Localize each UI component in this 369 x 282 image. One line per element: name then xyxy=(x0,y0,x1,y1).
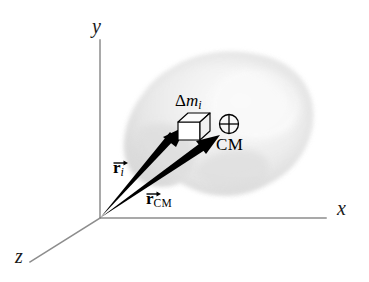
axis-label-y: y xyxy=(92,16,101,36)
center-of-mass-diagram: y x z Δmi CM r i r CM xyxy=(0,0,369,282)
delta-symbol: Δ xyxy=(175,91,186,110)
diagram-canvas xyxy=(0,0,369,282)
vector-arrow-icon xyxy=(146,190,161,197)
axis-label-x: x xyxy=(337,198,346,218)
vector-label-r-cm: r CM xyxy=(146,190,172,210)
center-of-mass-label: CM xyxy=(216,136,243,153)
axis-label-z: z xyxy=(15,246,23,266)
vector-r-cm-subscript: CM xyxy=(154,197,172,209)
vector-r-i-stem: r xyxy=(113,159,121,176)
z-axis xyxy=(30,218,100,262)
vector-label-r-i: r i xyxy=(113,159,124,178)
mass-element-label: Δmi xyxy=(175,92,202,111)
mass-index-subscript: i xyxy=(198,98,201,112)
center-of-mass-symbol xyxy=(220,115,239,134)
vector-arrow-icon xyxy=(113,159,128,166)
mass-symbol: m xyxy=(186,91,198,110)
vector-r-cm-stem: r xyxy=(146,190,154,207)
rigid-body-blob xyxy=(125,53,312,194)
mass-element-cube xyxy=(178,113,210,140)
vector-r-i-subscript: i xyxy=(121,165,124,179)
